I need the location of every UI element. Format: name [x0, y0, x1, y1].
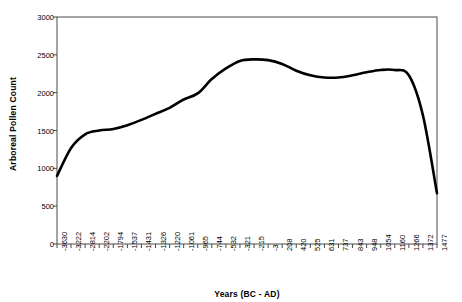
data-series-line [57, 59, 437, 193]
x-axis-title-text: Years (BC - AD) [214, 289, 280, 299]
y-axis-tick-labels: 050010001500200025003000 [24, 0, 54, 260]
x-axis-tick-marks [57, 244, 437, 248]
y-axis-tick-label: 2000 [37, 88, 54, 97]
y-axis-title: Arboreal Pollen Count [2, 0, 24, 248]
y-axis-tick-label: 3000 [37, 13, 54, 22]
y-axis-tick-label: 500 [41, 202, 54, 211]
x-axis-title: Years (BC - AD) [57, 283, 437, 301]
pollen-count-chart: Arboreal Pollen Count 050010001500200025… [0, 0, 462, 302]
y-axis-tick-label: 1500 [37, 126, 54, 135]
y-axis-title-text: Arboreal Pollen Count [8, 77, 18, 171]
plot-area [0, 0, 462, 302]
y-axis-tick-label: 0 [50, 240, 54, 249]
y-axis-tick-label: 2500 [37, 50, 54, 59]
y-axis-tick-label: 1000 [37, 164, 54, 173]
axis-frame [57, 17, 437, 244]
